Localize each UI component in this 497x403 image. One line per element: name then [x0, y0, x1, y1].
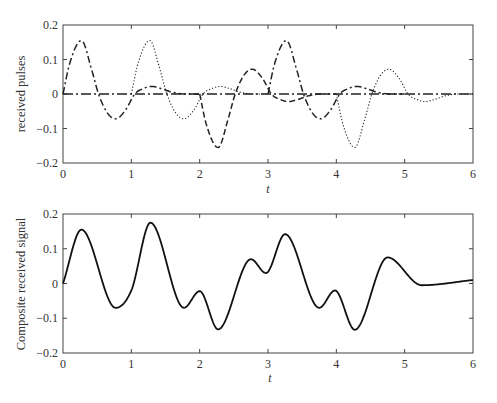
figure: 01234560.20.10−0.1−0.2 received pulses t…: [0, 0, 497, 403]
x-tick-label: 5: [402, 167, 408, 181]
bottom-signal-curve: [63, 223, 473, 330]
pulse-curve: [336, 69, 473, 147]
y-tick-label: 0: [52, 87, 58, 101]
pulse-curve: [63, 41, 199, 119]
y-tick-label: 0: [52, 277, 58, 291]
received-pulses-plot: 01234560.20.10−0.1−0.2 received pulses t: [14, 18, 476, 196]
x-tick-label: 2: [197, 167, 203, 181]
top-ylabel: received pulses: [14, 56, 28, 133]
x-tick-label: 4: [333, 357, 339, 371]
composite-signal-plot: 01234560.20.10−0.1−0.2 Composite receive…: [14, 207, 476, 385]
x-tick-label: 1: [128, 167, 134, 181]
x-tick-label: 6: [470, 167, 476, 181]
x-tick-label: 1: [128, 357, 134, 371]
top-xlabel: t: [266, 182, 270, 196]
bottom-ylabel: Composite received signal: [14, 217, 28, 350]
bottom-xlabel: t: [268, 371, 272, 385]
x-tick-label: 2: [197, 357, 203, 371]
top-pulse-curves: [63, 41, 473, 148]
y-tick-label: −0.1: [36, 311, 58, 325]
top-axis-ticks: 01234560.20.10−0.1−0.2: [36, 18, 476, 181]
bottom-axis-ticks: 01234560.20.10−0.1−0.2: [36, 207, 476, 371]
y-tick-label: 0.2: [43, 207, 58, 221]
y-tick-label: 0.1: [43, 242, 58, 256]
x-tick-label: 0: [60, 167, 66, 181]
x-tick-label: 0: [60, 357, 66, 371]
y-tick-label: −0.2: [36, 346, 58, 360]
x-tick-label: 6: [470, 357, 476, 371]
y-tick-label: −0.2: [36, 156, 58, 170]
x-tick-label: 5: [402, 357, 408, 371]
bottom-plot-frame: [63, 214, 473, 353]
pulse-curve: [200, 69, 337, 147]
y-tick-label: 0.1: [43, 53, 58, 67]
pulse-curve: [131, 41, 268, 119]
pulse-curve: [268, 41, 405, 119]
composite-curve: [63, 223, 473, 330]
y-tick-label: −0.1: [36, 122, 58, 136]
x-tick-label: 3: [265, 167, 271, 181]
x-tick-label: 3: [265, 357, 271, 371]
y-tick-label: 0.2: [43, 18, 58, 32]
x-tick-label: 4: [333, 167, 339, 181]
